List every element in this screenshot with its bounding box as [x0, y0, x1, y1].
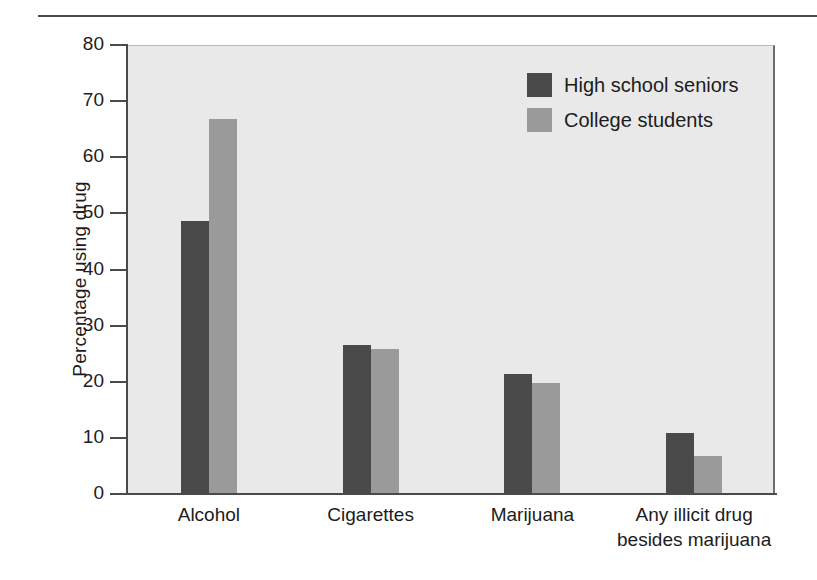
- bar: [504, 374, 532, 494]
- y-tick-label: 40: [38, 258, 104, 280]
- y-tick-label: 70: [38, 89, 104, 111]
- y-tick-label: 0: [38, 482, 104, 504]
- y-tick-mark: [110, 44, 127, 46]
- y-tick-label: 10: [38, 426, 104, 448]
- y-tick-label: 80: [38, 33, 104, 55]
- legend-item[interactable]: High school seniors: [527, 72, 739, 98]
- y-tick-label: 30: [38, 314, 104, 336]
- legend-item[interactable]: College students: [527, 107, 739, 133]
- x-axis-label-line: besides marijuana: [594, 527, 794, 552]
- x-axis-label-line: Any illicit drug: [594, 502, 794, 527]
- y-tick-mark: [110, 269, 127, 271]
- y-tick-mark: [110, 325, 127, 327]
- legend-label: High school seniors: [564, 74, 739, 97]
- bar: [532, 383, 560, 494]
- y-tick-mark: [110, 100, 127, 102]
- bar: [181, 221, 209, 494]
- legend-swatch: [527, 108, 552, 132]
- y-tick-mark: [110, 156, 127, 158]
- bar-chart-figure: Percentage using drug 01020304050607080 …: [0, 0, 817, 580]
- bar: [343, 345, 371, 494]
- bar: [371, 349, 399, 494]
- y-tick-label: 20: [38, 370, 104, 392]
- y-tick-mark: [110, 437, 127, 439]
- y-tick-mark: [110, 493, 127, 495]
- chart-legend: High school seniorsCollege students: [527, 72, 739, 142]
- legend-swatch: [527, 73, 552, 97]
- bar: [666, 433, 694, 494]
- y-tick-mark: [110, 381, 127, 383]
- x-axis-label: Any illicit drugbesides marijuana: [594, 502, 794, 552]
- y-tick-label: 60: [38, 145, 104, 167]
- legend-label: College students: [564, 109, 713, 132]
- bar: [209, 119, 237, 494]
- y-tick-mark: [110, 212, 127, 214]
- x-axis-line: [126, 493, 777, 495]
- y-tick-label: 50: [38, 201, 104, 223]
- bar: [694, 456, 722, 494]
